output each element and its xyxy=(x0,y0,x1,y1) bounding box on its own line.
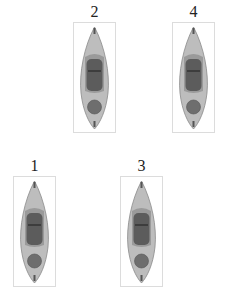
kayak-icon xyxy=(121,177,162,286)
kayak-image-frame xyxy=(172,22,215,133)
kayak-image-frame xyxy=(13,176,56,287)
figure-label: 2 xyxy=(73,4,116,20)
kayak-icon xyxy=(173,23,214,132)
figure-label: 3 xyxy=(120,158,163,174)
kayak-icon xyxy=(74,23,115,132)
kayak-image-frame xyxy=(73,22,116,133)
figure-label: 1 xyxy=(13,158,56,174)
figure-label: 4 xyxy=(172,4,215,20)
kayak-image-frame xyxy=(120,176,163,287)
kayak-icon xyxy=(14,177,55,286)
